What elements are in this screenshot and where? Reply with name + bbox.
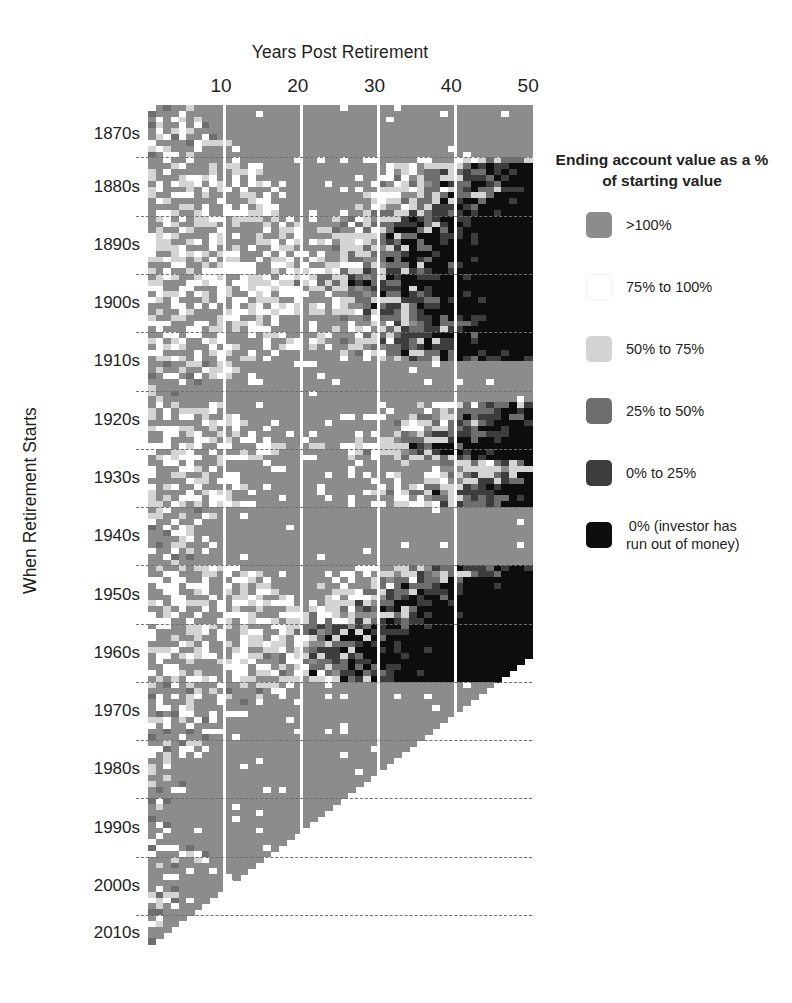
heatmap-cell	[524, 653, 532, 659]
y-tick-2000s: 2000s	[94, 876, 140, 896]
heatmap-cell	[409, 740, 417, 746]
heatmap-cell	[186, 909, 194, 915]
y-tick-1870s: 1870s	[94, 124, 140, 144]
legend-swatch-p50_75	[586, 336, 612, 362]
heatmap-cell	[148, 938, 156, 944]
heatmap-cell	[209, 892, 217, 898]
heatmap-cell	[371, 769, 379, 775]
heatmap-cell	[509, 664, 517, 670]
legend-label-zero: 0% (investor hasrun out of money)	[626, 517, 740, 553]
legend-entry-p25_50: 25% to 50%	[548, 394, 784, 428]
y-tick-1880s: 1880s	[94, 177, 140, 197]
y-tick-1890s: 1890s	[94, 235, 140, 255]
legend-swatch-p25_50	[586, 398, 612, 424]
legend-entry-p50_75: 50% to 75%	[548, 332, 784, 366]
heatmap-cell	[225, 880, 233, 886]
y-tick-1950s: 1950s	[94, 585, 140, 605]
legend-entry-p75_100: 75% to 100%	[548, 270, 784, 304]
legend-label-p50_75: 50% to 75%	[626, 340, 704, 358]
heatmap-cell	[417, 734, 425, 740]
heatmap-cell	[271, 845, 279, 851]
heatmap-cell	[256, 857, 264, 863]
x-tick-10: 10	[210, 74, 231, 98]
heatmap-cell	[448, 711, 456, 717]
y-axis-decade-labels: 1870s1880s1890s1900s1910s1920s1930s1940s…	[0, 0, 148, 1003]
heatmap-cell	[478, 688, 486, 694]
heatmap-cell	[194, 903, 202, 909]
heatmap-cell	[156, 933, 164, 939]
legend-entry-p0_25: 0% to 25%	[548, 456, 784, 490]
heatmap-cell	[248, 863, 256, 869]
legend-swatch-p75_100	[586, 274, 612, 300]
legend-label-p0_25: 0% to 25%	[626, 464, 696, 482]
heatmap-cell	[302, 822, 310, 828]
x-axis-title: Years Post Retirement	[148, 42, 532, 63]
legend-entry-gt100: >100%	[548, 208, 784, 242]
heatmap-cell	[317, 810, 325, 816]
heatmap-cells	[148, 105, 532, 950]
heatmap-cell	[348, 787, 356, 793]
heatmap-cell	[279, 839, 287, 845]
heatmap-cell	[179, 915, 187, 921]
legend-label-p25_50: 25% to 50%	[626, 402, 704, 420]
heatmap-cell	[163, 927, 171, 933]
heatmap-cell	[332, 798, 340, 804]
legend: Ending account value as a % of starting …	[548, 150, 784, 192]
heatmap-cell	[501, 670, 509, 676]
y-tick-1970s: 1970s	[94, 701, 140, 721]
heatmap-cell	[355, 781, 363, 787]
x-tick-40: 40	[441, 74, 462, 98]
legend-label-gt100: >100%	[626, 216, 672, 234]
heatmap-cell	[386, 758, 394, 764]
heatmap-cell	[463, 699, 471, 705]
heatmap-cell	[401, 746, 409, 752]
heatmap-cell	[440, 717, 448, 723]
heatmap-cell	[217, 886, 225, 892]
heatmap-cell	[494, 676, 502, 682]
heatmap-cell	[325, 804, 333, 810]
heatmap-cell	[432, 723, 440, 729]
heatmap-plot	[148, 105, 532, 950]
heatmap-cell	[394, 752, 402, 758]
legend-swatch-gt100	[586, 212, 612, 238]
heatmap-cell	[263, 851, 271, 857]
heatmap-cell	[471, 694, 479, 700]
chart-page: Years Post Retirement 1020304050 When Re…	[0, 0, 792, 1003]
heatmap-cell	[232, 874, 240, 880]
heatmap-cell	[202, 898, 210, 904]
heatmap-cell	[340, 793, 348, 799]
heatmap-cell	[294, 828, 302, 834]
legend-swatch-zero	[586, 522, 612, 548]
x-tick-30: 30	[364, 74, 385, 98]
heatmap-cell	[171, 921, 179, 927]
y-tick-1980s: 1980s	[94, 759, 140, 779]
y-tick-1920s: 1920s	[94, 410, 140, 430]
y-tick-1930s: 1930s	[94, 468, 140, 488]
y-tick-1910s: 1910s	[94, 351, 140, 371]
y-tick-1940s: 1940s	[94, 526, 140, 546]
heatmap-cell	[517, 659, 525, 665]
y-tick-1990s: 1990s	[94, 818, 140, 838]
heatmap-cell	[309, 816, 317, 822]
heatmap-cell	[486, 682, 494, 688]
heatmap-cell	[424, 729, 432, 735]
heatmap-cell	[286, 833, 294, 839]
heatmap-cell	[363, 775, 371, 781]
legend-entry-zero: 0% (investor hasrun out of money)	[548, 518, 784, 552]
heatmap-cell	[240, 868, 248, 874]
legend-swatch-p0_25	[586, 460, 612, 486]
legend-label-p75_100: 75% to 100%	[626, 278, 712, 296]
x-tick-50: 50	[518, 74, 539, 98]
heatmap-cell	[378, 764, 386, 770]
y-tick-1960s: 1960s	[94, 643, 140, 663]
legend-title: Ending account value as a % of starting …	[548, 150, 776, 192]
y-tick-2010s: 2010s	[94, 923, 140, 943]
y-tick-1900s: 1900s	[94, 293, 140, 313]
x-tick-20: 20	[287, 74, 308, 98]
heatmap-cell	[455, 705, 463, 711]
